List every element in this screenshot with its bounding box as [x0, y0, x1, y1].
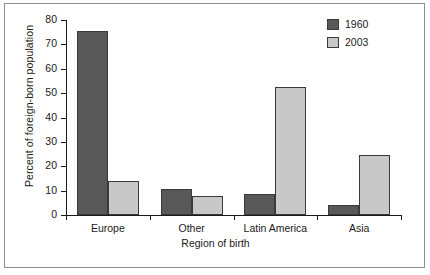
bar-asia-1960	[328, 205, 359, 215]
y-tick: 30	[61, 142, 66, 143]
y-tick-label: 80	[45, 13, 57, 25]
x-category-label-europe: Europe	[91, 222, 125, 234]
y-tick-label: 10	[45, 184, 57, 196]
y-tick-label: 70	[45, 37, 57, 49]
bar-asia-2003	[359, 155, 390, 215]
y-tick: 80	[61, 20, 66, 21]
x-category-label-other: Other	[178, 222, 204, 234]
bar-latin-america-1960	[244, 194, 275, 215]
bar-other-2003	[192, 196, 223, 216]
y-tick: 40	[61, 118, 66, 119]
y-tick: 50	[61, 93, 66, 94]
x-tick	[66, 215, 67, 220]
x-tick	[401, 215, 402, 220]
y-tick-label: 40	[45, 111, 57, 123]
legend-item-1960: 1960	[327, 16, 368, 32]
x-tick	[150, 215, 151, 220]
legend-swatch-icon	[327, 19, 339, 30]
bar-europe-2003	[108, 181, 139, 215]
x-category-label-asia: Asia	[349, 222, 369, 234]
y-tick-label: 20	[45, 159, 57, 171]
legend: 19602003	[327, 16, 368, 52]
y-axis-title: Percent of foreign-born population	[23, 6, 35, 206]
y-tick-label: 30	[45, 135, 57, 147]
legend-swatch-icon	[327, 37, 339, 48]
y-tick-label: 0	[51, 208, 57, 220]
y-tick: 20	[61, 166, 66, 167]
legend-label: 2003	[345, 37, 368, 48]
y-tick-label: 60	[45, 62, 57, 74]
bar-europe-1960	[77, 31, 108, 215]
y-tick: 70	[61, 44, 66, 45]
bar-other-1960	[161, 189, 192, 215]
x-category-label-latin-america: Latin America	[244, 222, 308, 234]
legend-item-2003: 2003	[327, 34, 368, 50]
y-tick: 10	[61, 191, 66, 192]
chart-figure: Percent of foreign-born population 01020…	[0, 0, 430, 275]
x-axis-title: Region of birth	[5, 237, 426, 249]
bar-latin-america-2003	[275, 87, 306, 215]
figure-frame: Percent of foreign-born population 01020…	[4, 3, 425, 268]
y-tick-label: 50	[45, 86, 57, 98]
x-tick	[317, 215, 318, 220]
y-axis-line	[66, 20, 67, 216]
y-tick: 60	[61, 69, 66, 70]
x-tick	[234, 215, 235, 220]
legend-label: 1960	[345, 19, 368, 30]
